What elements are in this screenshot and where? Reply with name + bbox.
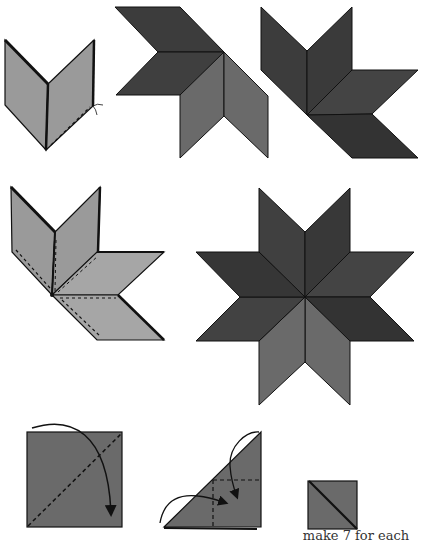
half-star-with-seams bbox=[11, 187, 164, 340]
caption-make-seven: make 7 for each bbox=[290, 529, 422, 543]
square-fold-diagonal bbox=[27, 424, 122, 527]
diagram-canvas bbox=[0, 0, 422, 545]
triangle-fold-corners bbox=[160, 432, 261, 529]
eight-pointed-star bbox=[196, 188, 414, 405]
finished-square bbox=[308, 481, 357, 529]
quarter-star-top-middle bbox=[115, 7, 268, 158]
quarter-star-top-right bbox=[261, 7, 418, 158]
two-diamonds-joined bbox=[5, 40, 103, 150]
